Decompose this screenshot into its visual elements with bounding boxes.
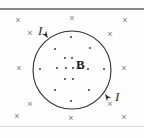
magnetic-field-figure: ×××××××××××× B I I (0, 0, 144, 138)
field-out-of-page-dot (87, 68, 89, 70)
field-into-page-cross: × (121, 16, 130, 25)
field-out-of-page-dot (70, 100, 72, 102)
field-out-of-page-dot (64, 57, 66, 59)
field-into-page-cross: × (14, 16, 23, 25)
field-out-of-page-dot (54, 48, 56, 50)
field-out-of-page-dot (39, 68, 41, 70)
field-out-of-page-dot (64, 78, 66, 80)
current-loop-circle (33, 31, 111, 109)
field-out-of-page-dot (72, 67, 74, 69)
field-into-page-cross: × (120, 64, 129, 73)
field-out-of-page-dot (65, 67, 67, 69)
field-into-page-cross: × (26, 29, 35, 38)
field-into-page-cross: × (15, 64, 24, 73)
field-out-of-page-dot (72, 78, 74, 80)
field-into-page-cross: × (26, 100, 35, 109)
field-into-page-cross: × (67, 114, 76, 123)
field-into-page-cross: × (13, 112, 22, 121)
field-out-of-page-dot (89, 47, 91, 49)
current-label-lower-right: I (115, 90, 119, 103)
field-out-of-page-dot (70, 36, 72, 38)
field-out-of-page-dot (88, 89, 90, 91)
field-into-page-cross: × (106, 100, 115, 109)
field-into-page-cross: × (106, 30, 115, 39)
field-out-of-page-dot (71, 57, 73, 59)
current-label-upper-left: I (38, 24, 42, 37)
field-out-of-page-dot (103, 68, 105, 70)
field-into-page-cross: × (120, 113, 129, 122)
field-out-of-page-dot (56, 67, 58, 69)
field-into-page-cross: × (68, 14, 77, 23)
field-out-of-page-dot (54, 89, 56, 91)
field-magnitude-label: B (76, 58, 85, 71)
